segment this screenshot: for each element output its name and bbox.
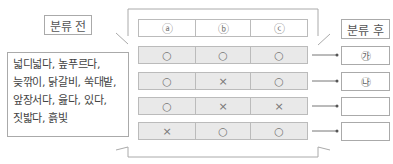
table-cell: × bbox=[250, 97, 308, 115]
arrows bbox=[312, 54, 339, 133]
word-line: 넓디넓다, 높푸르다, bbox=[13, 56, 123, 74]
header-c: ⓒ bbox=[250, 19, 308, 37]
table-cell: ○ bbox=[195, 122, 251, 140]
word-line: 앞장서다, 읊다, 있다, bbox=[13, 92, 123, 110]
result-box bbox=[341, 97, 390, 116]
header-a: ⓐ bbox=[138, 19, 196, 37]
table-cell: × bbox=[195, 97, 251, 115]
table-cell: ○ bbox=[138, 46, 196, 64]
word-line: 짓밟다, 흙빛 bbox=[13, 110, 123, 128]
after-label: 분류 후 bbox=[341, 19, 390, 39]
table-cell: ○ bbox=[250, 72, 308, 90]
word-line: 늦깎이, 닭갈비, 쑥대밭, bbox=[13, 74, 123, 92]
table-cell: ○ bbox=[138, 97, 196, 115]
table-cell: × bbox=[138, 122, 196, 140]
table-cell: ○ bbox=[195, 46, 251, 64]
word-list: 넓디넓다, 높푸르다, 늦깎이, 닭갈비, 쑥대밭, 앞장서다, 읊다, 있다,… bbox=[7, 52, 129, 137]
result-box bbox=[341, 122, 390, 141]
result-box: ㉯ bbox=[341, 72, 390, 91]
result-box: ㉮ bbox=[341, 46, 390, 65]
before-label: 분류 전 bbox=[44, 15, 92, 35]
table-cell: × bbox=[195, 72, 251, 90]
table-cell: ○ bbox=[250, 46, 308, 64]
table-cell: ○ bbox=[138, 72, 196, 90]
table-cell: ○ bbox=[250, 122, 308, 140]
header-b: ⓑ bbox=[195, 19, 251, 37]
